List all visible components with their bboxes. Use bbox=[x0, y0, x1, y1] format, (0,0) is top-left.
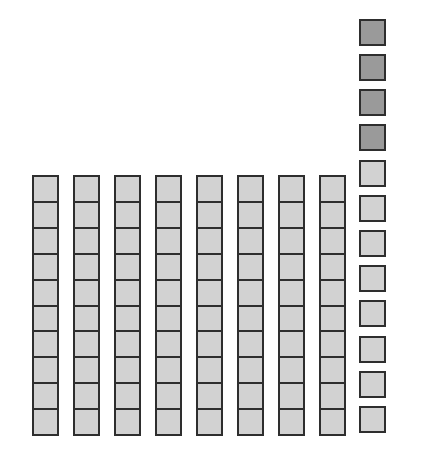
rod-cell bbox=[321, 177, 344, 203]
rod-cell bbox=[280, 384, 303, 410]
rod-cell bbox=[198, 203, 221, 229]
unit-cube bbox=[359, 406, 386, 433]
rod-cell bbox=[157, 307, 180, 333]
rod-cell bbox=[198, 307, 221, 333]
ten-rod bbox=[278, 175, 305, 436]
rod-cell bbox=[34, 358, 57, 384]
rod-cell bbox=[321, 410, 344, 434]
unit-cube bbox=[359, 265, 386, 292]
rod-cell bbox=[75, 177, 98, 203]
rod-cell bbox=[157, 358, 180, 384]
rod-cell bbox=[34, 384, 57, 410]
rod-cell bbox=[157, 177, 180, 203]
rod-cell bbox=[75, 255, 98, 281]
rod-cell bbox=[321, 281, 344, 307]
rod-cell bbox=[34, 203, 57, 229]
rod-cell bbox=[239, 281, 262, 307]
rod-cell bbox=[116, 358, 139, 384]
unit-cube-shaded bbox=[359, 124, 386, 151]
ten-rod bbox=[73, 175, 100, 436]
rod-cell bbox=[321, 358, 344, 384]
rod-cell bbox=[198, 177, 221, 203]
rod-cell bbox=[280, 177, 303, 203]
unit-cube-shaded bbox=[359, 54, 386, 81]
rod-cell bbox=[34, 307, 57, 333]
rod-cell bbox=[75, 281, 98, 307]
rod-cell bbox=[116, 177, 139, 203]
rod-cell bbox=[198, 281, 221, 307]
rod-cell bbox=[321, 229, 344, 255]
rod-cell bbox=[116, 229, 139, 255]
rod-cell bbox=[75, 332, 98, 358]
ten-rod bbox=[196, 175, 223, 436]
rod-cell bbox=[34, 332, 57, 358]
rod-cell bbox=[239, 384, 262, 410]
rod-cell bbox=[116, 255, 139, 281]
rod-cell bbox=[116, 332, 139, 358]
rod-cell bbox=[157, 410, 180, 434]
rod-cell bbox=[280, 255, 303, 281]
rod-cell bbox=[116, 384, 139, 410]
rod-cell bbox=[321, 255, 344, 281]
rod-cell bbox=[280, 203, 303, 229]
rod-cell bbox=[75, 203, 98, 229]
rod-cell bbox=[198, 384, 221, 410]
rod-cell bbox=[75, 410, 98, 434]
rod-cell bbox=[280, 281, 303, 307]
unit-cube-shaded bbox=[359, 19, 386, 46]
rod-cell bbox=[198, 255, 221, 281]
rod-cell bbox=[75, 358, 98, 384]
rod-cell bbox=[75, 384, 98, 410]
rod-cell bbox=[239, 410, 262, 434]
ten-rod bbox=[319, 175, 346, 436]
rod-cell bbox=[34, 281, 57, 307]
unit-cube bbox=[359, 336, 386, 363]
rod-cell bbox=[34, 410, 57, 434]
rod-cell bbox=[157, 332, 180, 358]
ten-rod bbox=[237, 175, 264, 436]
unit-cube bbox=[359, 371, 386, 398]
rod-cell bbox=[157, 203, 180, 229]
rod-cell bbox=[280, 358, 303, 384]
ten-rod bbox=[155, 175, 182, 436]
rod-cell bbox=[198, 229, 221, 255]
rod-cell bbox=[239, 358, 262, 384]
rod-cell bbox=[280, 332, 303, 358]
unit-cube-shaded bbox=[359, 89, 386, 116]
rod-cell bbox=[321, 384, 344, 410]
rod-cell bbox=[116, 203, 139, 229]
rod-cell bbox=[239, 177, 262, 203]
rod-cell bbox=[239, 332, 262, 358]
rod-cell bbox=[34, 229, 57, 255]
rod-cell bbox=[239, 203, 262, 229]
rod-cell bbox=[239, 307, 262, 333]
rod-cell bbox=[198, 358, 221, 384]
rod-cell bbox=[157, 255, 180, 281]
rod-cell bbox=[116, 307, 139, 333]
rod-cell bbox=[198, 332, 221, 358]
rod-cell bbox=[321, 203, 344, 229]
unit-cube bbox=[359, 300, 386, 327]
rod-cell bbox=[34, 177, 57, 203]
rod-cell bbox=[75, 229, 98, 255]
unit-cube bbox=[359, 230, 386, 257]
ten-rod bbox=[32, 175, 59, 436]
rod-cell bbox=[280, 307, 303, 333]
rod-cell bbox=[239, 229, 262, 255]
rod-cell bbox=[34, 255, 57, 281]
rod-cell bbox=[116, 410, 139, 434]
rod-cell bbox=[157, 229, 180, 255]
unit-cube bbox=[359, 195, 386, 222]
rod-cell bbox=[157, 384, 180, 410]
unit-cube bbox=[359, 160, 386, 187]
rod-cell bbox=[280, 410, 303, 434]
rod-cell bbox=[116, 281, 139, 307]
rod-cell bbox=[75, 307, 98, 333]
ten-rod bbox=[114, 175, 141, 436]
rod-cell bbox=[321, 307, 344, 333]
rod-cell bbox=[280, 229, 303, 255]
rod-cell bbox=[198, 410, 221, 434]
rod-cell bbox=[321, 332, 344, 358]
rod-cell bbox=[157, 281, 180, 307]
rod-cell bbox=[239, 255, 262, 281]
